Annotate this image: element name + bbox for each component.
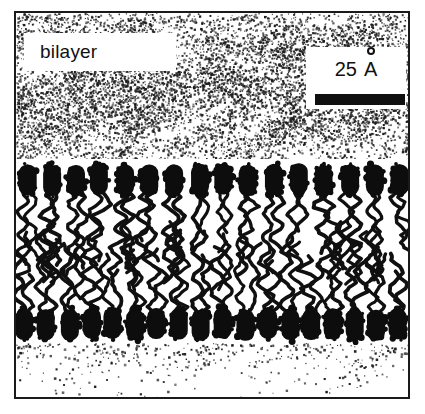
aqueous-lower-stipple [16,343,408,397]
bilayer-label: bilayer [40,39,97,65]
scale-bar-label: 25A [308,57,404,81]
figure-caption: Schematic cross-section of a phospholipi… [0,0,1,1]
angstrom-icon: A [364,57,377,81]
scale-value: 25 [335,58,357,80]
figure-root: bilayer 25A Schematic cross-section of a… [0,0,425,414]
figure-frame: bilayer 25A [14,11,410,399]
scale-bar-rule [315,94,405,105]
angstrom-letter: A [364,58,377,80]
angstrom-ring-icon [367,47,375,55]
lipid-bilayer-membrane [16,156,408,348]
